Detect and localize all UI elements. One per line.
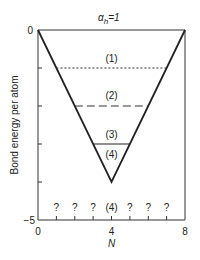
label-3: (3) <box>105 129 117 140</box>
question-mark: ? <box>72 202 78 213</box>
y-axis-label: Bond energy per atom <box>9 76 20 175</box>
bond-energy-chart: αh=1 (1) (2) (3) (4) ? ? ? (4) ? <box>0 0 200 260</box>
label-1: (1) <box>105 53 117 64</box>
label-2: (2) <box>105 90 117 101</box>
question-mark: ? <box>146 202 152 213</box>
question-mark: ? <box>90 202 96 213</box>
x-axis-label: N <box>108 238 116 249</box>
question-mark: ? <box>127 202 133 213</box>
y-tick-minus5: −5 <box>24 215 36 226</box>
x-tick-8: 8 <box>182 226 188 237</box>
question-mark: ? <box>54 202 60 213</box>
x-tick-0: 0 <box>35 226 41 237</box>
question-mark: ? <box>164 202 170 213</box>
label-4: (4) <box>105 149 117 160</box>
x-axis-ticks <box>56 216 166 220</box>
y-tick-0: 0 <box>27 25 33 36</box>
bottom-annotation-row: ? ? ? (4) ? ? ? <box>54 202 170 213</box>
chart-title: αh=1 <box>98 12 120 26</box>
x-tick-4: 4 <box>109 226 115 237</box>
y-axis-ticks <box>38 68 42 182</box>
label-4-bottom: (4) <box>105 202 117 213</box>
